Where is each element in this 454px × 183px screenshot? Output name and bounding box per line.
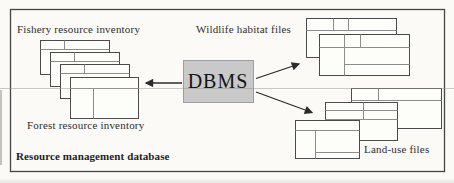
arrow-to-wildlife-icon (256, 64, 299, 79)
landuse-label: Land-use files (364, 143, 429, 156)
dbms-label: DBMS (183, 60, 253, 102)
fishery-forest-files-icon (41, 41, 139, 119)
page-bottom-shade (0, 178, 454, 183)
wildlife-label: Wildlife habitat files (196, 23, 291, 36)
wildlife-files-icon (307, 19, 410, 76)
resource-management-database-diagram: Fishery resource inventory Wildlife habi… (0, 0, 454, 183)
forest-label: Forest resource inventory (27, 119, 144, 132)
arrow-to-landuse-icon (256, 92, 312, 113)
fishery-label: Fishery resource inventory (17, 23, 140, 36)
diagram-caption: Resource management database (16, 150, 170, 163)
